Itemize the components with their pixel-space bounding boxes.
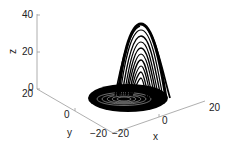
z-tick-label: 20 [22,47,33,57]
y-tick-label: 0 [64,110,70,120]
y-tick-label: 20 [22,89,33,99]
z-tick-label: 40 [22,10,33,20]
plot-3d [0,0,235,146]
x-tick-label: 0 [162,116,168,126]
x-tick-label: 20 [209,103,220,113]
x-axis-label: x [153,132,158,142]
y-tick-label: −20 [90,129,107,139]
x-tick-label: −20 [112,129,129,139]
z-axis-label: z [7,49,18,54]
figure: 40 20 0 z 20 0 −20 y −20 0 20 x [0,0,235,146]
y-axis-label: y [67,128,72,138]
